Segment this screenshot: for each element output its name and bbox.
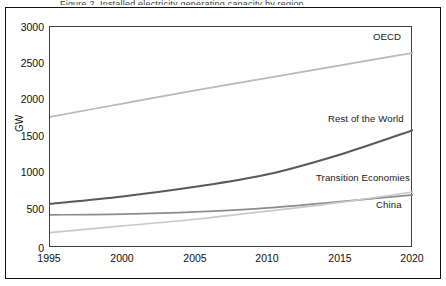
series-label-transition-economies: Transition Economies — [315, 172, 411, 183]
series-label-rest-of-the-world: Rest of the World — [327, 113, 405, 124]
series-line-oecd — [50, 53, 413, 117]
x-tick-2000: 2000 — [99, 252, 145, 264]
x-tick-2010: 2010 — [244, 252, 290, 264]
x-tick-1995: 1995 — [26, 252, 72, 264]
x-tick-2020: 2020 — [389, 252, 435, 264]
series-label-oecd: OECD — [372, 31, 402, 42]
series-lines — [50, 27, 413, 248]
series-line-rest-of-the-world — [50, 130, 413, 204]
series-label-china: China — [375, 199, 403, 210]
chart-figure: Figure 2. Installed electricity generati… — [0, 0, 446, 286]
x-tick-2015: 2015 — [317, 252, 363, 264]
x-tick-2005: 2005 — [172, 252, 218, 264]
plot-area — [49, 26, 412, 247]
